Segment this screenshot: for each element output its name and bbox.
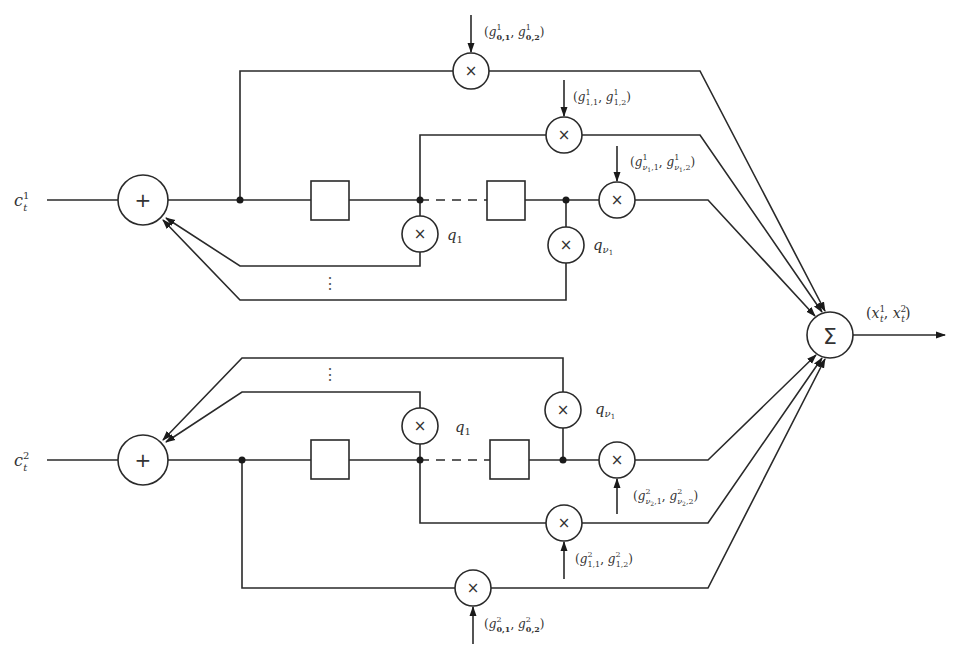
convolutional-encoder-diagram: + × × × × × ⋮: [0, 0, 955, 655]
top-branch-1-wire: [420, 135, 546, 200]
bottom-delay-1: [311, 440, 349, 479]
top-mult-qnu: ×: [548, 227, 584, 263]
input-label-bottom: c2t: [14, 450, 29, 473]
bottom-mult-qnu: ×: [545, 392, 581, 428]
bottom-mult-q1: ×: [402, 408, 438, 444]
top-feedback-qnu-wire: [163, 220, 566, 300]
svg-text:+: +: [135, 448, 152, 472]
bottom-tap-0-label: (g20,1, g20,2): [484, 615, 544, 634]
svg-text:×: ×: [611, 451, 624, 469]
svg-text:×: ×: [465, 62, 478, 80]
bottom-junction-1: [417, 457, 424, 464]
bottom-vdots: ⋮: [322, 365, 338, 384]
bottom-q1-label: q1: [455, 418, 471, 437]
bottom-feedback-qnu-wire: [163, 358, 563, 440]
top-mult-q1: ×: [402, 216, 438, 252]
bottom-branch-0-out: [491, 359, 825, 588]
top-mult-g0: ×: [453, 53, 489, 89]
top-tap-nu-label: (g1ν1,1, g1ν1,2): [630, 153, 695, 173]
bottom-chain: + × × × × × ⋮: [47, 355, 825, 644]
bottom-tap-nu-label: (g2ν2,1, g2ν2,2): [633, 487, 698, 507]
bottom-mult-gnu: ×: [599, 442, 635, 478]
top-branch-0-out: [489, 71, 825, 311]
bottom-mult-g1: ×: [546, 505, 582, 541]
bottom-adder: +: [118, 435, 168, 485]
top-mult-g1: ×: [546, 117, 582, 153]
input-label-top: c1t: [14, 190, 29, 213]
top-vdots: ⋮: [322, 274, 338, 293]
top-delay-nu: [487, 181, 525, 220]
top-tap-1-label: (g11,1, g11,2): [573, 88, 631, 107]
top-branch-nu-out: [635, 200, 815, 316]
top-junction-0: [237, 197, 244, 204]
top-chain: + × × × × × ⋮: [47, 15, 825, 316]
top-feedback-q1-wire: [166, 218, 420, 266]
bottom-delay-nu: [490, 440, 529, 479]
bottom-junction-0: [239, 457, 246, 464]
top-mult-gnu: ×: [599, 182, 635, 218]
bottom-junction-nu: [560, 457, 567, 464]
top-junction-1: [417, 197, 424, 204]
svg-text:×: ×: [414, 417, 427, 435]
bottom-branch-1-out: [582, 358, 822, 523]
top-q1-label: q1: [447, 226, 463, 245]
svg-text:×: ×: [558, 514, 571, 532]
top-tap-0-label: (g10,1, g10,2): [484, 23, 544, 42]
top-qnu-label: qν1: [593, 236, 613, 257]
svg-text:×: ×: [560, 236, 573, 254]
bottom-feedback-q1-wire: [166, 392, 420, 442]
top-junction-nu: [563, 197, 570, 204]
bottom-tap-1-label: (g21,1, g21,2): [575, 550, 633, 569]
top-adder: +: [118, 175, 168, 225]
svg-text:×: ×: [557, 401, 570, 419]
bottom-qnu-label: qν1: [595, 400, 615, 421]
svg-text:×: ×: [558, 126, 571, 144]
top-delay-1: [311, 181, 349, 220]
svg-text:×: ×: [414, 225, 427, 243]
svg-text:×: ×: [611, 191, 624, 209]
svg-text:×: ×: [467, 579, 480, 597]
output-label: (x1t, x2t): [866, 304, 910, 324]
plus-symbol: +: [135, 188, 152, 212]
bottom-branch-nu-out: [635, 355, 816, 460]
bottom-mult-g0: ×: [455, 570, 491, 606]
sigma-symbol: Σ: [823, 324, 837, 349]
